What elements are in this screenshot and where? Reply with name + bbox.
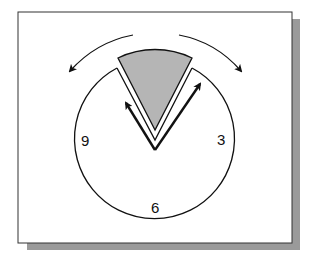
clock-number-3: 3 xyxy=(217,131,225,148)
clock-diagram: 9 3 6 xyxy=(0,0,314,263)
clock-number-9: 9 xyxy=(81,132,89,149)
clock-number-6: 6 xyxy=(151,199,159,216)
